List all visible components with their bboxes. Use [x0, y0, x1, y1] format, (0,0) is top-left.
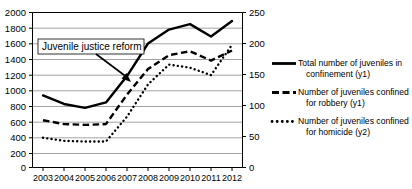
- annotation-text: Juvenile justice reform: [42, 41, 141, 52]
- x-tick-label: 2004: [54, 173, 74, 183]
- y1-tick-label: 1400: [5, 54, 26, 65]
- x-tick-label: 2008: [138, 173, 158, 183]
- x-tick-label: 2012: [222, 173, 242, 183]
- x-tick-label: 2009: [159, 173, 179, 183]
- legend-item-total-confinement[interactable]: Total number of juveniles in confinement…: [272, 58, 402, 79]
- y2-tick-label: 0: [249, 162, 254, 173]
- y2-tick-label: 250: [249, 7, 265, 18]
- x-axis-ticks: [43, 168, 232, 172]
- x-tick-label: 2011: [201, 173, 220, 183]
- y2-axis-ticks: [243, 13, 247, 168]
- y1-tick-label: 0: [21, 162, 26, 173]
- x-tick-label: 2006: [96, 173, 116, 183]
- y1-axis-ticks: [29, 13, 33, 168]
- legend-label-line2: for homicide (y2): [306, 127, 370, 137]
- legend-label-line1: Number of juveniles confined: [298, 116, 409, 126]
- y1-tick-label: 2000: [5, 7, 26, 18]
- x-axis-tick-labels: 2003 2004 2005 2006 2007 2008 2009 2010 …: [33, 173, 242, 183]
- legend-label-line1: Total number of juveniles in: [298, 58, 402, 68]
- y2-tick-label: 150: [249, 69, 265, 80]
- legend-label-line2: for robbery (y1): [306, 98, 365, 108]
- y1-tick-label: 800: [10, 101, 26, 112]
- y1-axis-tick-labels: 2000 1800 1600 1400 1200 1000 800 600 40…: [5, 7, 26, 173]
- chart-legend: Total number of juveniles in confinement…: [272, 58, 409, 137]
- y1-tick-label: 1000: [5, 85, 26, 96]
- y1-tick-label: 1200: [5, 70, 26, 81]
- x-tick-label: 2010: [180, 173, 200, 183]
- chart-container: 2000 1800 1600 1400 1200 1000 800 600 40…: [0, 0, 412, 189]
- legend-item-homicide[interactable]: Number of juveniles confined for homicid…: [272, 116, 409, 137]
- legend-item-robbery[interactable]: Number of juveniles confined for robbery…: [272, 87, 409, 108]
- y2-axis-tick-labels: 250 200 150 100 50 0: [249, 7, 265, 173]
- y2-tick-label: 200: [249, 38, 265, 49]
- y1-tick-label: 400: [10, 132, 26, 143]
- x-tick-label: 2007: [117, 173, 137, 183]
- y2-tick-label: 50: [249, 131, 260, 142]
- x-tick-label: 2005: [75, 173, 95, 183]
- legend-label-line2: confinement (y1): [306, 69, 370, 79]
- y1-tick-label: 200: [10, 148, 26, 159]
- y1-tick-label: 1600: [5, 38, 26, 49]
- y1-tick-label: 1800: [5, 23, 26, 34]
- y2-tick-label: 100: [249, 100, 265, 111]
- y1-tick-label: 600: [10, 117, 26, 128]
- x-tick-label: 2003: [33, 173, 53, 183]
- legend-label-line1: Number of juveniles confined: [298, 87, 409, 97]
- chart-svg: 2000 1800 1600 1400 1200 1000 800 600 40…: [0, 0, 412, 189]
